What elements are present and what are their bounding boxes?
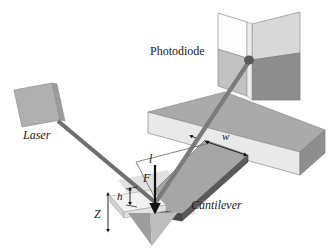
afm-diagram-canvas: l F w h Z Photodiode Laser C: [0, 0, 336, 251]
z-displacement-annotation: Z: [94, 194, 108, 231]
force-label: F: [142, 171, 151, 185]
photodiode-label: Photodiode: [150, 44, 205, 58]
cantilever-label: Cantilever: [191, 198, 242, 212]
tip-height-label: h: [117, 190, 123, 202]
probe-tip-left-face: [128, 213, 152, 246]
probe-tip-pyramid: [128, 212, 178, 246]
laser-beam-incident: [58, 121, 156, 203]
laser-spot-on-photodiode: [244, 55, 254, 64]
photodiode-quadrant-top-right: [252, 12, 300, 60]
photodiode-quadrant-bottom-right: [252, 53, 300, 100]
afm-diagram-figure: l F w h Z Photodiode Laser C: [0, 0, 336, 251]
laser-label: Laser: [22, 128, 51, 142]
laser-source: [14, 83, 65, 127]
laser-source-face: [14, 83, 60, 127]
width-label: w: [222, 130, 230, 142]
z-displacement-label: Z: [94, 207, 101, 221]
probe-tip-right-face: [150, 212, 178, 246]
length-label: l: [149, 152, 153, 166]
